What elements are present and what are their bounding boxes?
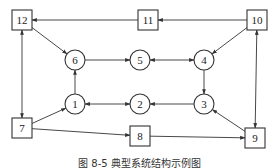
- edge-7-to-1: [32, 108, 66, 123]
- edge-12-to-6: [32, 28, 67, 54]
- edge-8-to-9: [150, 136, 245, 138]
- node-2: 2: [130, 94, 150, 114]
- node-1: 1: [65, 94, 85, 114]
- node-label: 2: [137, 98, 143, 110]
- node-5: 5: [130, 50, 150, 70]
- node-label: 8: [137, 130, 143, 142]
- system-diagram: 121110654123789: [0, 0, 279, 168]
- edge-10-to-9: [255, 30, 257, 128]
- node-3: 3: [194, 94, 214, 114]
- node-12: 12: [12, 10, 32, 30]
- node-9: 9: [245, 128, 265, 148]
- node-label: 1: [72, 98, 78, 110]
- nodes-layer: 121110654123789: [12, 10, 267, 148]
- edge-10-to-4: [212, 28, 247, 54]
- node-11: 11: [138, 10, 158, 30]
- node-label: 12: [17, 14, 28, 26]
- node-4: 4: [194, 50, 214, 70]
- figure-caption: 图 8-5 典型系统结构示例图: [0, 155, 279, 168]
- edge-7-to-8: [32, 129, 130, 136]
- node-label: 9: [252, 132, 258, 144]
- node-6: 6: [65, 50, 85, 70]
- edges-layer: [22, 20, 257, 138]
- node-label: 4: [201, 54, 207, 66]
- node-label: 5: [137, 54, 143, 66]
- edge-9-to-3: [212, 110, 245, 132]
- node-label: 11: [143, 14, 154, 26]
- node-label: 7: [19, 122, 25, 134]
- node-10: 10: [247, 10, 267, 30]
- node-label: 6: [72, 54, 78, 66]
- node-8: 8: [130, 126, 150, 146]
- node-7: 7: [12, 118, 32, 138]
- node-label: 3: [201, 98, 207, 110]
- node-label: 10: [252, 14, 264, 26]
